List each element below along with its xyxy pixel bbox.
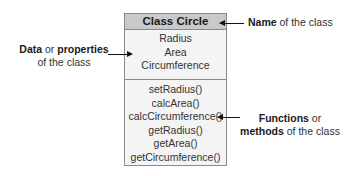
methods-section: setRadius() calcArea() calcCircumference… xyxy=(125,80,226,164)
method-item: getArea() xyxy=(125,137,226,151)
data-annotation: Data or properties of the class xyxy=(14,43,114,69)
name-annotation: Name of the class xyxy=(248,16,333,29)
method-item: calcArea() xyxy=(125,97,226,111)
class-name-header: Class Circle xyxy=(125,14,226,30)
method-item: getCircumference() xyxy=(125,151,226,165)
class-box: Class Circle Radius Area Circumference s… xyxy=(124,13,227,166)
property-item: Circumference xyxy=(125,59,226,73)
property-item: Area xyxy=(125,46,226,60)
method-item: getRadius() xyxy=(125,124,226,138)
method-item: setRadius() xyxy=(125,83,226,97)
property-item: Radius xyxy=(125,32,226,46)
method-item: calcCircumference() xyxy=(125,110,226,124)
functions-annotation: Functions or methods of the class xyxy=(234,112,346,138)
properties-section: Radius Area Circumference xyxy=(125,30,226,80)
name-arrow-icon xyxy=(220,23,244,24)
data-arrow-icon xyxy=(108,54,132,55)
